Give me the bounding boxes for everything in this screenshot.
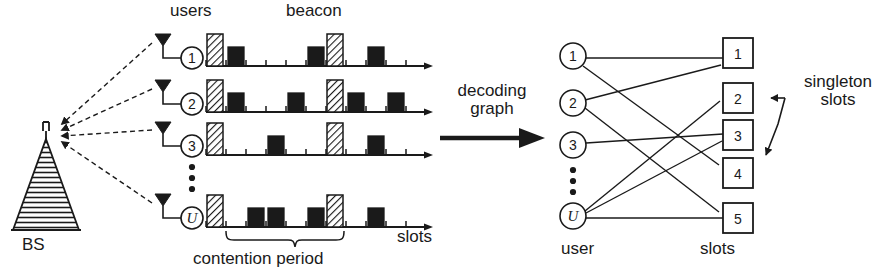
- timeline-row-user-1: [206, 34, 433, 70]
- svg-text:2: 2: [569, 95, 577, 111]
- graph-user-node-U: U: [560, 203, 586, 229]
- graph-slot-node-2: 2: [723, 83, 753, 113]
- user-terminal-3: 3: [155, 122, 203, 157]
- label-singleton-slots: singleton slots: [785, 73, 891, 109]
- label-singleton-slots-line1: singleton: [785, 73, 891, 91]
- label-slots-axis: slots: [700, 240, 735, 258]
- edge-user1-slot4: [583, 66, 719, 165]
- graph-user-node-1: 1: [560, 43, 586, 69]
- contention-period-brace: [226, 231, 344, 247]
- packet-slot: [308, 47, 324, 66]
- beacon-slot: [327, 34, 343, 66]
- label-decoding-graph-line2: graph: [442, 100, 542, 118]
- uplink-arrow-user-3: [62, 130, 152, 136]
- packet-slot: [268, 136, 284, 155]
- label-slots-timeline: slots: [397, 228, 432, 246]
- uplink-arrow-user-U: [62, 142, 152, 203]
- svg-text:2: 2: [188, 96, 196, 112]
- decoding-graph-user-nodes: 1 2 3 U: [560, 43, 586, 229]
- packet-slot: [228, 93, 244, 112]
- decoding-graph-slot-nodes: 1 2 3 4 5: [723, 38, 753, 233]
- packet-slot: [368, 47, 384, 66]
- timeline-row-user-2: [206, 80, 433, 116]
- svg-text:1: 1: [734, 46, 742, 62]
- uplink-arrow-user-1: [62, 43, 152, 124]
- uplink-arrows-group: [62, 43, 152, 203]
- svg-text:U: U: [187, 210, 199, 226]
- svg-text:5: 5: [734, 211, 742, 227]
- edge-user3-slot3: [586, 134, 723, 143]
- packet-slot: [248, 208, 264, 227]
- graph-slot-node-4: 4: [723, 158, 753, 188]
- user-terminal-U: U: [155, 194, 203, 229]
- graph-user-node-3: 3: [560, 132, 586, 158]
- label-singleton-slots-line2: slots: [785, 91, 891, 109]
- base-station-tower-icon: [13, 139, 79, 230]
- edge-userU-slot3: [586, 141, 722, 213]
- beacon-slot: [327, 195, 343, 227]
- figure-root: 1 2 3: [0, 0, 896, 274]
- svg-text:4: 4: [734, 166, 742, 182]
- svg-text:2: 2: [734, 91, 742, 107]
- svg-text:1: 1: [188, 50, 196, 66]
- label-contention-period: contention period: [193, 250, 323, 268]
- base-station-group: [11, 122, 81, 230]
- packet-slot: [388, 93, 404, 112]
- label-users: users: [170, 2, 212, 20]
- label-decoding-graph: decoding graph: [442, 82, 542, 118]
- uplink-arrow-user-2: [62, 89, 152, 130]
- edge-user2-slot5: [585, 108, 719, 212]
- beacon-slot: [207, 195, 223, 227]
- graph-slot-node-3: 3: [723, 120, 753, 150]
- user-terminal-2: 2: [155, 80, 203, 115]
- user-terminal-1: 1: [155, 34, 203, 69]
- singleton-slots-callout-arrow-icon: [766, 98, 785, 155]
- label-user-axis: user: [561, 240, 594, 258]
- timeline-row-user-3: [206, 123, 433, 159]
- packet-slot: [288, 93, 304, 112]
- packet-slot: [228, 47, 244, 66]
- timeline-row-user-U: [206, 195, 433, 231]
- label-base-station: BS: [22, 236, 45, 254]
- svg-text:3: 3: [188, 138, 196, 154]
- beacon-slot: [207, 123, 223, 155]
- packet-slot: [268, 208, 284, 227]
- beacon-slot: [207, 34, 223, 66]
- svg-text:1: 1: [569, 48, 577, 64]
- svg-text:3: 3: [734, 128, 742, 144]
- edge-userU-slot2: [585, 101, 720, 211]
- packet-slot: [308, 208, 324, 227]
- beacon-slot: [207, 80, 223, 112]
- beacon-slot: [327, 80, 343, 112]
- label-beacon: beacon: [286, 2, 342, 20]
- user-terminal-ellipsis-icon: [189, 164, 195, 192]
- packet-slot: [368, 136, 384, 155]
- graph-user-node-2: 2: [560, 90, 586, 116]
- beacon-slot: [327, 123, 343, 155]
- graph-slot-node-1: 1: [723, 38, 753, 68]
- graph-user-ellipsis-icon: [570, 167, 576, 195]
- user-terminals-group: 1 2 3: [155, 34, 203, 229]
- label-decoding-graph-line1: decoding: [442, 82, 542, 100]
- decoding-graph-arrow-icon: [440, 128, 545, 148]
- diagram-canvas: 1 2 3: [0, 0, 896, 274]
- graph-slot-node-5: 5: [723, 203, 753, 233]
- svg-text:U: U: [568, 208, 580, 224]
- packet-slot: [348, 93, 364, 112]
- packet-slot: [368, 208, 384, 227]
- decoding-graph-edges: [583, 58, 723, 218]
- svg-text:3: 3: [569, 137, 577, 153]
